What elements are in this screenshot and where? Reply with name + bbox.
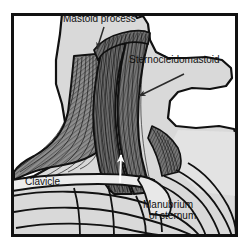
label-mastoid-process: Mastoid process — [63, 13, 136, 24]
label-manubrium-line2: of sternum — [143, 210, 223, 221]
label-manubrium-of-sternum: Manubrium of sternum — [143, 199, 223, 221]
label-sternocleidomastoid: Sternocleidomastoid — [129, 54, 220, 65]
anatomy-figure: Mastoid process Sternocleidomastoid Clav… — [0, 0, 247, 249]
muscle-pull-direction-arrow — [120, 155, 121, 183]
label-manubrium-line1: Manubrium — [143, 199, 193, 210]
label-clavicle: Clavicle — [25, 176, 60, 187]
